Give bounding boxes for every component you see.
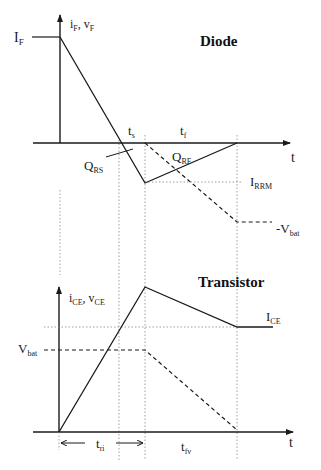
- diode-title: Diode: [200, 33, 238, 49]
- diode-y-axis-label: iF, vF: [70, 17, 95, 33]
- transistor-y-axis-label: iCE, vCE: [69, 291, 105, 307]
- if-label: IF: [14, 30, 24, 47]
- vbat-label: Vbat: [18, 341, 38, 358]
- qrf-label: QRF: [172, 149, 192, 166]
- qrs-label: QRS: [84, 158, 103, 175]
- tfv-label: tfv: [181, 439, 191, 456]
- transistor-voltage-waveform: [44, 350, 237, 430]
- switching-waveform-diagram: Diode iF, vF IF ts tf t QRS QRF IRRM -Vb…: [0, 0, 321, 470]
- transistor-x-axis-label: t: [289, 435, 293, 450]
- ice-label: ICE: [266, 309, 281, 326]
- transistor-title: Transistor: [198, 274, 265, 290]
- tri-label: tri: [96, 436, 105, 453]
- ts-label: ts: [128, 123, 135, 140]
- tf-label: tf: [180, 123, 187, 140]
- diode-x-axis-label: t: [291, 150, 295, 165]
- irrm-label: IRRM: [250, 174, 272, 191]
- transistor-plot: Transistor iCE, vCE ICE Vbat t tri tfv: [18, 274, 293, 456]
- transistor-current-waveform: [59, 287, 273, 432]
- diode-plot: Diode iF, vF IF ts tf t QRS QRF IRRM -Vb…: [14, 15, 300, 460]
- neg-vbat-label: -Vbat: [276, 221, 300, 238]
